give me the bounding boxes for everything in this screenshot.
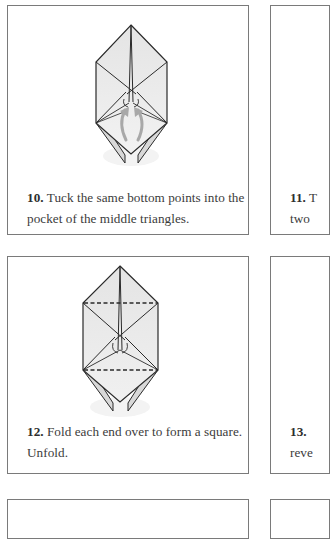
step-caption: 10. Tuck the same bottom points into the… [27,187,244,229]
step-text-line-1: Tuck the same bottom points into the [44,190,245,205]
step-card-11: 11. T two [270,5,330,235]
step-number: 10. [27,190,44,205]
step-card-next-left [7,499,249,539]
step-text-line-1: T [306,190,317,205]
step-text-line-2: Unfold. [27,442,242,463]
step-text-line-1: Fold each end over to form a square. [44,424,243,439]
step-number: 11. [290,190,306,205]
step-card-13: 13. reve [270,256,330,474]
step-caption: 12. Fold each end over to form a square.… [27,421,242,463]
step-caption: 11. T two [290,187,317,229]
step-text-line-2: reve [290,442,313,463]
step-number: 13. [290,424,307,439]
step-card-next-right [270,499,330,539]
step-card-12: 12. Fold each end over to form a square.… [7,256,249,474]
step-number: 12. [27,424,44,439]
step-caption: 13. reve [290,421,313,463]
step-text-line-2: pocket of the middle triangles. [27,208,244,229]
folded-model-with-dashed-fold-lines-icon [8,257,250,422]
step-text-line-2: two [290,208,317,229]
step-card-10: 10. Tuck the same bottom points into the… [7,5,249,235]
folded-model-with-tuck-arrows-icon [8,6,250,181]
